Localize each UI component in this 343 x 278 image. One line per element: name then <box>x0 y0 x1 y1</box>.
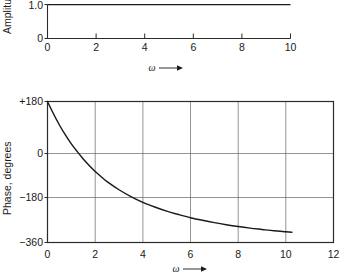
amplitude-xtick-4: 4 <box>142 41 148 53</box>
amplitude-xtick-10: 10 <box>285 41 297 53</box>
amplitude-ytick-1.0: 1.0 <box>28 0 43 11</box>
figure-svg: Amplitude 1.0 0 0 2 4 6 8 10 <box>0 0 343 278</box>
phase-chart: Phase, degrees +180 0 −180 −360 0 <box>1 95 339 274</box>
phase-xtick-2: 2 <box>92 248 98 260</box>
omega-symbol-bottom: ω <box>172 263 179 274</box>
phase-xtick-10: 10 <box>280 248 292 260</box>
bode-plot-figure: Amplitude 1.0 0 0 2 4 6 8 10 <box>0 0 343 278</box>
phase-ytick-0: 0 <box>37 147 43 159</box>
amplitude-ytick-0: 0 <box>37 32 43 44</box>
phase-data-curve <box>48 102 292 233</box>
arrow-head-bottom <box>201 266 207 272</box>
phase-xtick-0: 0 <box>45 248 51 260</box>
phase-y-axis-title: Phase, degrees <box>1 141 13 215</box>
phase-ytick-minus360: −360 <box>19 236 43 248</box>
amplitude-xtick-0: 0 <box>45 41 51 53</box>
phase-xtick-4: 4 <box>140 248 146 260</box>
phase-x-axis-title: ω <box>172 263 207 274</box>
amplitude-xtick-6: 6 <box>190 41 196 53</box>
phase-xtick-6: 6 <box>188 248 194 260</box>
amplitude-xtick-8: 8 <box>239 41 245 53</box>
amplitude-xtick-2: 2 <box>93 41 99 53</box>
phase-ytick-plus180: +180 <box>19 95 43 107</box>
amplitude-y-axis-title: Amplitude <box>1 0 13 34</box>
omega-symbol-top: ω <box>148 62 155 73</box>
arrow-head-top <box>177 65 183 71</box>
phase-ytick-minus180: −180 <box>19 191 43 203</box>
phase-xtick-12: 12 <box>328 248 340 260</box>
amplitude-chart: Amplitude 1.0 0 0 2 4 6 8 10 <box>1 0 296 73</box>
phase-xtick-8: 8 <box>235 248 241 260</box>
amplitude-x-axis-title: ω <box>148 62 183 73</box>
